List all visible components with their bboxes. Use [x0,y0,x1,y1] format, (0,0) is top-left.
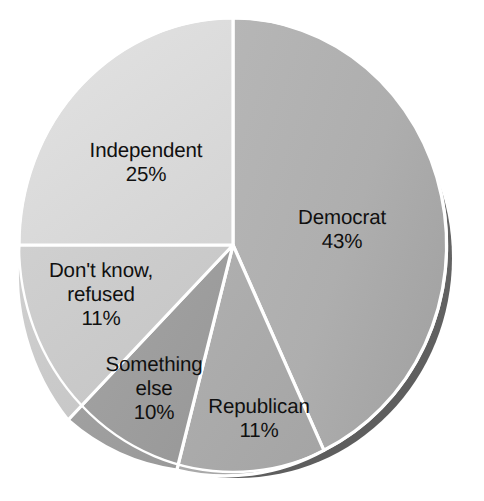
pie-label-something-else-name-line2: else [105,377,202,401]
pie-label-democrat-value: 43% [298,230,386,254]
pie-label-dont-know: Don't know, refused 11% [49,259,153,331]
pie-label-democrat-name: Democrat [298,206,386,230]
pie-label-dont-know-name: Don't know, [49,259,153,283]
pie-slice-independent[interactable] [19,18,233,245]
pie-label-democrat: Democrat 43% [298,206,386,254]
pie-label-republican: Republican 11% [208,395,310,443]
pie-label-independent-value: 25% [90,163,203,187]
pie-label-dont-know-value: 11% [49,307,153,331]
pie-label-independent-name: Independent [90,139,203,163]
pie-chart-figure: Democrat 43% Independent 25% Don't know,… [0,0,484,501]
pie-label-republican-value: 11% [208,419,310,443]
pie-label-something-else-value: 10% [105,401,202,425]
pie-label-something-else-name: Something [105,353,202,377]
pie-label-republican-name: Republican [208,395,310,419]
pie-label-independent: Independent 25% [90,139,203,187]
pie-label-something-else: Something else 10% [105,353,202,425]
pie-label-dont-know-name-line2: refused [49,283,153,307]
